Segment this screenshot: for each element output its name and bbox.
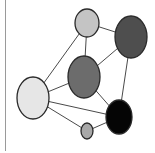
node-D (17, 77, 49, 119)
node-F (81, 123, 93, 139)
node-C (68, 56, 100, 98)
network-graph (0, 0, 155, 153)
graph-nodes (17, 9, 147, 139)
node-B (115, 16, 147, 58)
node-A (75, 9, 99, 37)
node-E (106, 100, 132, 134)
